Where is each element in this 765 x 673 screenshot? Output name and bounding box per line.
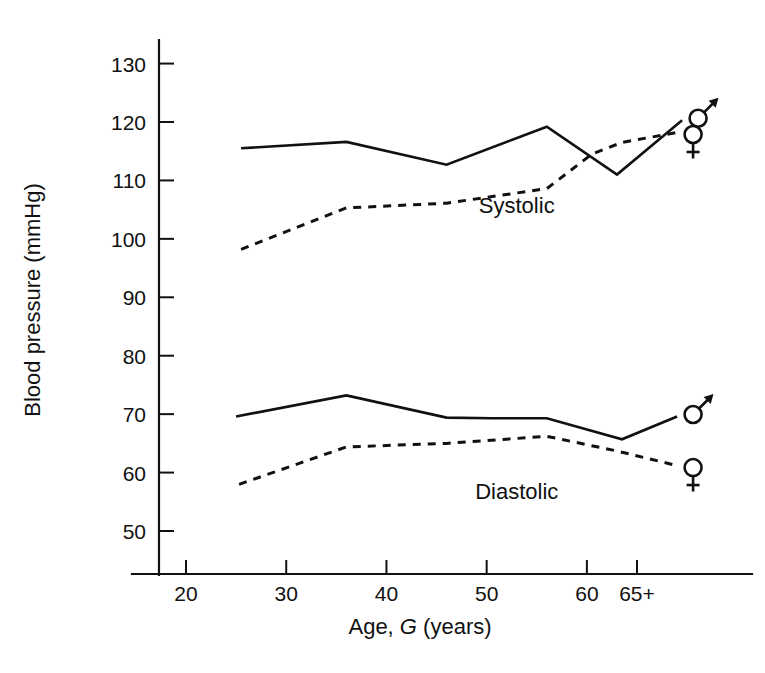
series-line-systolic-male: [241, 120, 682, 174]
annotation-systolic: Systolic: [479, 193, 555, 218]
male-symbol-diastolic: [685, 394, 714, 423]
x-axis-ticks: [186, 560, 637, 574]
x-axis-title-italic: G: [400, 614, 417, 639]
x-tick-label: 40: [375, 582, 398, 605]
series-lines: [236, 120, 682, 484]
x-axis-title-post: (years): [417, 614, 492, 639]
female-symbol-diastolic: [685, 459, 702, 492]
female-symbol-systolic: [685, 126, 702, 159]
series-line-systolic-female: [241, 133, 677, 250]
y-tick-label: 110: [113, 169, 146, 192]
x-tick-label: 50: [475, 582, 498, 605]
x-tick-label: 30: [275, 582, 298, 605]
y-tick-label: 50: [123, 520, 146, 543]
blood-pressure-line-chart: 5060708090100110120130 203040506065+ Sys…: [0, 0, 765, 673]
y-tick-label: 60: [123, 462, 146, 485]
x-axis-tick-labels: 203040506065+: [174, 582, 654, 605]
y-tick-label: 90: [123, 286, 146, 309]
x-tick-label: 65+: [619, 582, 655, 605]
y-tick-label: 80: [123, 345, 146, 368]
x-axis-title-pre: Age,: [348, 614, 399, 639]
y-axis-tick-labels: 5060708090100110120130: [111, 53, 146, 543]
y-tick-label: 120: [111, 111, 146, 134]
annotation-diastolic: Diastolic: [475, 479, 558, 504]
series-line-diastolic-female: [239, 436, 677, 484]
chart-container: 5060708090100110120130 203040506065+ Sys…: [0, 0, 765, 673]
series-end-symbols: [685, 98, 719, 492]
male-symbol-systolic: [690, 98, 719, 127]
y-axis-ticks: [159, 64, 174, 531]
x-axis-title: Age, G (years): [348, 614, 491, 639]
series-line-diastolic-male: [236, 395, 677, 439]
y-tick-label: 130: [111, 53, 146, 76]
x-tick-label: 20: [174, 582, 197, 605]
series-annotations: SystolicDiastolic: [475, 193, 558, 504]
y-tick-label: 100: [111, 228, 146, 251]
y-tick-label: 70: [123, 403, 146, 426]
x-tick-label: 60: [575, 582, 598, 605]
y-axis-title: Blood pressure (mmHg): [20, 183, 45, 417]
